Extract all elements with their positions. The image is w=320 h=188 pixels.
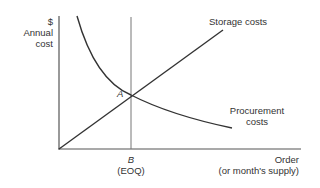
procurement-costs-curve bbox=[77, 16, 232, 128]
x-axis-label: Order (or month's supply) bbox=[219, 154, 299, 176]
y-axis-line1: Annual bbox=[23, 27, 53, 38]
y-axis-label: $ Annual cost bbox=[23, 16, 53, 49]
point-a-label: A bbox=[117, 88, 123, 99]
point-b-label: B bbox=[111, 154, 151, 165]
storage-costs-line bbox=[59, 30, 223, 149]
storage-costs-label: Storage costs bbox=[209, 16, 267, 27]
y-axis-line2: cost bbox=[23, 38, 53, 49]
procurement-costs-label: Procurement costs bbox=[218, 105, 296, 127]
eoq-text: (EOQ) bbox=[111, 165, 151, 176]
eoq-label: B (EOQ) bbox=[111, 154, 151, 176]
y-axis-symbol: $ bbox=[23, 16, 53, 27]
